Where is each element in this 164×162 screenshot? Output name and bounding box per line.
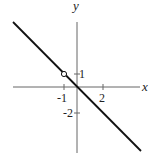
hole-marker [61,71,66,76]
x-tick-label-2: 2 [99,91,105,105]
x-tick-label-neg1: -1 [57,91,67,105]
y-axis-label: y [71,0,79,13]
y-tick-label-neg2: -2 [63,106,73,120]
function-graph: y x -1 2 1 -2 [0,0,164,162]
x-axis-label: x [141,79,148,94]
y-tick-label-1: 1 [79,67,85,81]
